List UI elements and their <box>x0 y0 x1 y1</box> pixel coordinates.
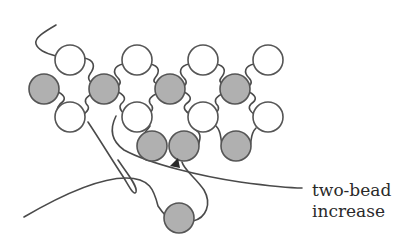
bead-gray <box>220 74 250 104</box>
label-line-2: increase <box>312 201 391 222</box>
bead-gray <box>89 74 119 104</box>
bead-gray <box>221 131 251 161</box>
bead-gray <box>155 74 185 104</box>
bead-white <box>253 102 283 132</box>
thread-bottom-curve <box>24 178 166 217</box>
bead-gray-increase <box>137 131 167 161</box>
bead-gray <box>29 74 59 104</box>
bead-white <box>122 102 152 132</box>
bead-white <box>253 45 283 75</box>
bead-white <box>188 102 218 132</box>
bead-gray-increase <box>169 131 199 161</box>
label-line-1: two-bead <box>312 180 391 201</box>
bead-white <box>55 45 85 75</box>
annotation-label: two-bead increase <box>312 180 391 222</box>
beads <box>29 45 283 233</box>
bead-white <box>188 45 218 75</box>
bead-gray-loose <box>164 203 194 233</box>
thread-tail-top <box>36 25 56 56</box>
bead-white <box>122 45 152 75</box>
bead-white <box>55 102 85 132</box>
